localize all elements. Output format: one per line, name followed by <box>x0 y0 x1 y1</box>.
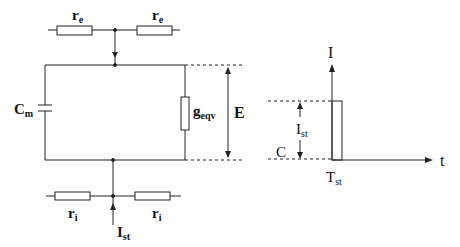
resistor-ri-left <box>55 192 90 200</box>
y-axis-arrow-icon <box>329 64 335 72</box>
stimulus-pulse <box>332 101 342 160</box>
x-axis-label: t <box>440 152 445 169</box>
baseline-label: C <box>276 144 286 160</box>
current-source-arrow-icon <box>110 203 116 210</box>
top-rail <box>48 26 180 65</box>
re-right-label: re <box>152 7 164 25</box>
amplitude-arrow-down-icon <box>297 152 303 159</box>
capacitor-label: Cm <box>14 101 34 119</box>
x-axis-arrow-icon <box>425 157 433 163</box>
re-left-label: re <box>72 7 84 25</box>
ri-left-label: ri <box>68 205 78 223</box>
voltage-label: E <box>234 104 245 121</box>
conductance-label: geqv <box>193 103 216 121</box>
resistor-re-left <box>57 26 92 35</box>
duration-label: Tst <box>326 169 342 187</box>
conductance-resistor <box>181 97 189 130</box>
circuit-diagram: re re Cm geqv E ri ri Ist <box>0 0 460 247</box>
arrow-down-icon <box>225 151 231 158</box>
y-axis-label: I <box>328 44 333 61</box>
amplitude-label: Ist <box>296 121 308 139</box>
resistor-re-right <box>137 26 172 35</box>
main-loop <box>38 64 189 162</box>
pulse-chart <box>268 64 433 163</box>
bottom-node <box>112 195 115 198</box>
amplitude-arrow-up-icon <box>297 102 303 109</box>
ri-right-label: ri <box>152 205 162 223</box>
current-source-label: Ist <box>117 224 131 242</box>
current-arrow-down-icon <box>112 52 118 58</box>
arrow-up-icon <box>225 67 231 74</box>
resistor-ri-right <box>135 192 170 200</box>
